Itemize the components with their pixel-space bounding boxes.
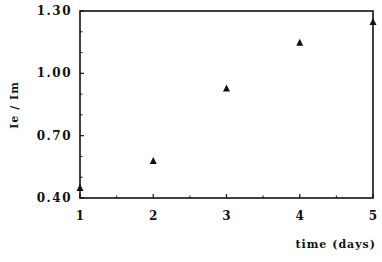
y-tick-labels: 0.400.701.001.30 (37, 4, 72, 205)
x-tick-label: 1 (76, 209, 84, 223)
y-tick-label: 1.30 (37, 4, 72, 18)
x-tick-label: 4 (296, 209, 304, 223)
triangle-marker (77, 184, 84, 191)
y-tick-label: 1.00 (37, 66, 72, 80)
scatter-chart: 0.400.701.001.30 12345 Ie / Im time (day… (0, 0, 382, 262)
x-tick-label: 5 (369, 209, 377, 223)
y-tick-label: 0.40 (37, 191, 72, 205)
triangle-marker (150, 157, 157, 164)
y-tick-label: 0.70 (37, 129, 72, 143)
triangle-marker (370, 18, 377, 25)
y-axis-label: Ie / Im (8, 81, 21, 129)
x-axis-label: time (days) (295, 238, 376, 251)
plot-border (80, 11, 373, 198)
x-tick-label: 2 (149, 209, 157, 223)
axis-ticks (80, 11, 373, 198)
data-points (77, 18, 377, 191)
x-tick-label: 3 (222, 209, 230, 223)
plot-frame (80, 11, 373, 198)
triangle-marker (223, 84, 230, 91)
x-tick-labels: 12345 (76, 209, 377, 223)
triangle-marker (296, 39, 303, 46)
